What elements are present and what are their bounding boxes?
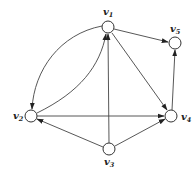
edge-v1-v2-outer-arc [32,26,102,109]
edge-v1-v4 [112,33,167,110]
edge-v1-v5 [114,29,168,42]
edge-v4-v5 [172,50,175,110]
edge-v2-v1-inner-arc [37,34,106,113]
node-v1 [102,21,114,33]
label-v2: v2 [13,110,24,123]
label-v4: v4 [181,111,192,124]
label-v1: v1 [103,6,113,19]
node-v2 [25,110,37,122]
edge-v3-v2 [37,119,103,147]
node-v5 [169,37,181,49]
edge-v3-v1 [108,34,109,143]
edge-v3-v4 [115,119,165,146]
directed-graph: v1 v5 v2 v4 v3 [0,0,196,177]
label-v5: v5 [170,23,181,36]
node-v3 [103,143,115,155]
node-v4 [165,110,177,122]
label-v3: v3 [104,156,115,169]
